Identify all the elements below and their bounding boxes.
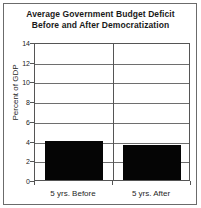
y-axis-tick-mark (30, 142, 34, 143)
gridline (35, 64, 189, 65)
gridline (35, 103, 189, 104)
category-divider (113, 44, 114, 180)
x-axis-tick-mark (112, 181, 113, 185)
x-axis-tick-mark (34, 181, 35, 185)
plot-area (34, 43, 190, 181)
y-axis-tick-mark (30, 63, 34, 64)
chart-title: Average Government Budget Deficit Before… (10, 9, 191, 31)
gridline (35, 83, 189, 84)
x-axis-tick-mark (190, 181, 191, 185)
y-axis-tick-mark (30, 181, 34, 182)
y-axis-tick-mark (30, 43, 34, 44)
y-axis-tick-mark (30, 102, 34, 103)
x-axis-tick-label: 5 yrs. After (106, 189, 196, 198)
chart-title-line-1: Average Government Budget Deficit (10, 9, 191, 20)
y-axis-tick-labels: 02468101214 (14, 43, 30, 181)
y-axis-tick-label: 12 (22, 60, 30, 67)
y-axis-tick-label: 10 (22, 79, 30, 86)
chart-figure: Average Government Budget Deficit Before… (0, 0, 201, 208)
bar (45, 141, 103, 180)
y-axis-tick-mark (30, 82, 34, 83)
chart-title-line-2: Before and After Democratization (10, 20, 191, 31)
y-axis-tick-mark (30, 161, 34, 162)
y-axis-tick-mark (30, 122, 34, 123)
x-axis-tick-label: 5 yrs. Before (28, 189, 118, 198)
bar (123, 145, 181, 180)
y-axis-tick-label: 14 (22, 40, 30, 47)
gridline (35, 123, 189, 124)
